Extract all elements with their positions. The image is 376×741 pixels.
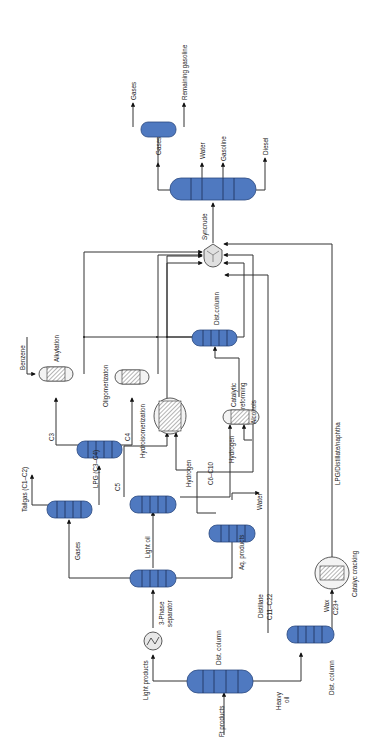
gasoline-split-column [141,122,176,137]
label-c4: C4 [124,432,131,441]
label-lpg: LPG (C3–C4) [92,450,100,488]
aqueous-column [209,525,255,542]
label-catalytic-cracking: Catalyc cracking [351,550,359,597]
label-lpg-distillate-naphtha: LPG/Distillate/naphtha [334,422,342,485]
label-hydroisomerization: Hydroisomerization [139,404,147,458]
dist-column-2 [287,626,334,643]
tailgas-column [47,501,92,518]
label-hydrogen-2: Hydrogen [228,435,236,463]
label-syncrude: Syncrude [201,213,209,240]
label-water-1: Water [256,493,263,510]
label-diesel: Diesel [262,138,269,156]
label-light-oil: Light oil [144,536,152,558]
label-distillate-2: C11–C22 [266,593,273,620]
label-aq-products: Aq. products [238,535,246,570]
label-c3: C3 [48,432,55,441]
oligomerization-reactor [115,370,149,384]
process-flow-diagram: Ft products Dist. column Light products … [0,0,376,741]
label-c6-c10: C6–C10 [207,461,214,485]
label-heavy-oil-2: oil [283,697,290,703]
label-remaining-gasoline: Remaining gasoline [181,44,189,100]
label-gasoline: Gasoline [220,136,227,161]
label-tailgas: Tailgas (C1–C2) [21,467,29,512]
label-light-products: Light products [142,660,150,700]
dist-column-1 [187,670,253,693]
label-catalytic-reforming-2: reforming [239,382,247,409]
label-water-2: Water [199,142,206,159]
label-oligomerization: Oligomerizaton [102,364,110,407]
alkylation-reactor [39,367,73,381]
label-wax-c23: C23+ [332,599,339,615]
label-alkylation: Alkylation [53,335,61,362]
label-c5: C5 [114,482,121,491]
lpg-column [77,441,122,458]
label-distillate-1: Distillate [257,594,264,618]
label-hydrogen-1: Hydrogen [185,459,193,487]
label-wax: Wax [323,599,330,612]
label-alcohols: Alcohols [250,400,257,424]
c5-column [130,496,176,513]
label-dist-column-2: Dist. column [328,660,335,695]
label-ft-products: Ft products [218,706,226,738]
label-gases-3: Gases [130,82,137,100]
label-phase-sep-2: separator [166,600,174,627]
label-dist-column-1: Dist. column [215,630,222,665]
label-dist-column-3: Dist.column [213,292,220,325]
dist-column-3 [192,330,237,346]
label-gases-1: Gases [74,542,81,560]
catalytic-cracking-reactor [315,557,349,589]
label-phase-sep-1: 3-Phase [158,601,165,625]
label-heavy-oil-1: Heavy [275,691,283,710]
three-phase-separator [130,570,176,587]
mixer-icon [204,244,222,267]
heat-exchanger-icon [144,632,162,650]
label-benzene: Benzene [19,345,26,370]
label-gases-2: Gases [155,137,162,155]
label-catalytic-reforming-1: Catalytic [230,383,238,407]
hydroisomerization-reactor [154,398,186,434]
syncrude-column [170,178,256,200]
